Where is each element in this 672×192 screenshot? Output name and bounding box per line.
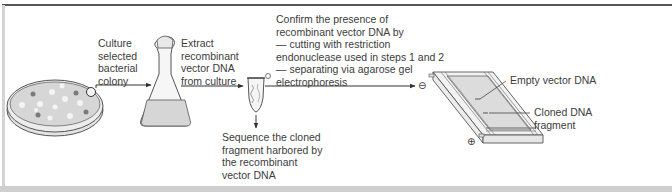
microcentrifuge-tube-icon: [247, 74, 271, 113]
gel-band-cloned-label: Cloned DNA fragment: [534, 106, 592, 131]
step-sequence-label: Sequence the cloned fragment harbored by…: [222, 131, 322, 181]
anode-symbol: ⊕: [467, 136, 475, 149]
step-extract-label: Extract recombinant vector DNA from cult…: [181, 37, 239, 87]
diagram-frame: Culture selected bacterial colony Extrac…: [0, 0, 672, 192]
step-culture-label: Culture selected bacterial colony: [98, 37, 138, 87]
step-confirm-label: Confirm the presence of recombinant vect…: [276, 13, 444, 88]
cathode-symbol: ⊖: [418, 80, 426, 93]
petri-dish-icon: [7, 80, 103, 136]
gel-band-empty-label: Empty vector DNA: [510, 74, 596, 87]
